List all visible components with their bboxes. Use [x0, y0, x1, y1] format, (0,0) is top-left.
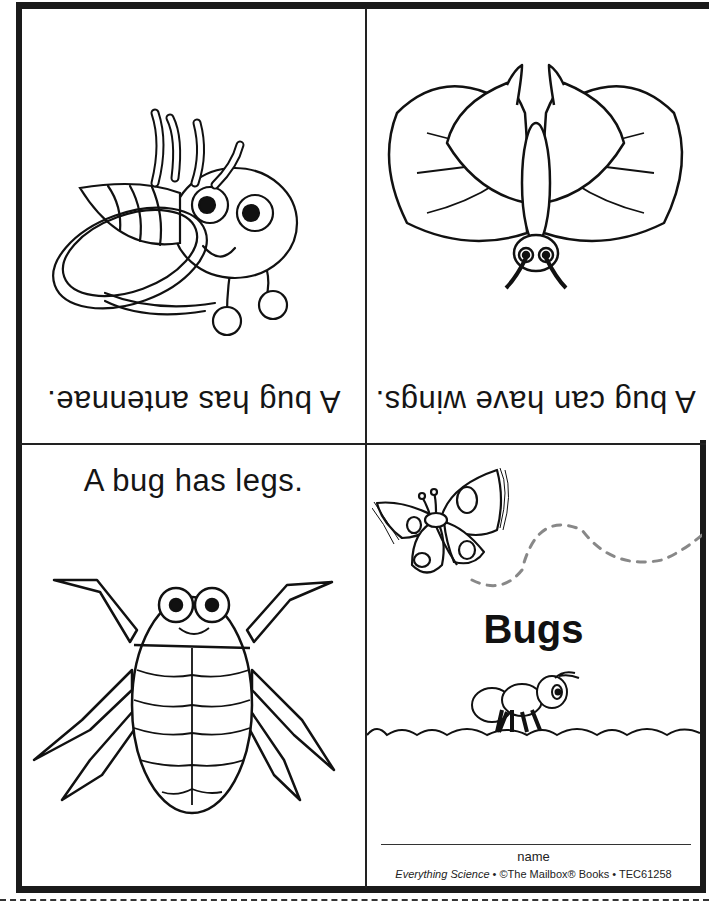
credit-publisher: ©The Mailbox® Books [500, 868, 610, 880]
credit-series: Everything Science [395, 868, 489, 880]
name-label: name [367, 849, 700, 864]
booklet-title: Bugs [367, 607, 700, 652]
page-border-top [16, 2, 709, 9]
butterfly-icon [367, 43, 704, 353]
credit-code: TEC61258 [619, 868, 672, 880]
name-field-line[interactable] [381, 844, 691, 845]
page-border-bottom [16, 886, 706, 893]
caption-antennae: A bug has antennae. [22, 383, 365, 419]
credit-line: Everything Science • ©The Mailbox® Books… [367, 868, 700, 880]
credit-sep-1: • [490, 868, 500, 880]
fly-icon [45, 53, 345, 353]
panel-cover: Bugs name Everything Science • ©The Mail… [367, 445, 700, 886]
beetle-icon [22, 560, 365, 820]
cut-line [0, 899, 709, 901]
panel-wings: A bug can have wings. [367, 9, 704, 443]
caption-wings: A bug can have wings. [367, 383, 704, 419]
flight-path-icon [462, 500, 702, 590]
caption-legs: A bug has legs. [22, 463, 365, 499]
credit-sep-2: • [609, 868, 619, 880]
panel-antennae: A bug has antennae. [22, 9, 365, 443]
grass-icon [367, 715, 700, 745]
panel-legs: A bug has legs. [22, 445, 365, 886]
